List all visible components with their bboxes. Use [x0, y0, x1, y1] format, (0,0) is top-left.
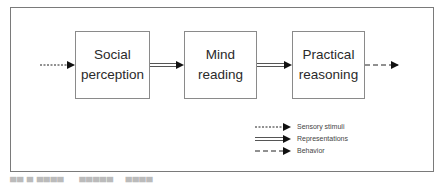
legend-label-behavior: Behavior	[297, 147, 325, 154]
legend-behavior-line	[255, 147, 291, 155]
legend-label-sensory-stimuli: Sensory stimuli	[297, 123, 344, 130]
representations-arrow-1	[150, 61, 184, 69]
legend-label-representations: Representations	[297, 135, 348, 142]
representations-arrow-2	[257, 61, 292, 69]
arrows-layer	[0, 0, 442, 183]
legend-representations-line	[255, 135, 291, 143]
legend-sensory-stimuli-line	[255, 123, 291, 131]
cut-off-caption: ▀▀ ▀ ▀▀▀▀ ▀▀▀▀▀ ▀▀▀▀	[10, 177, 153, 183]
